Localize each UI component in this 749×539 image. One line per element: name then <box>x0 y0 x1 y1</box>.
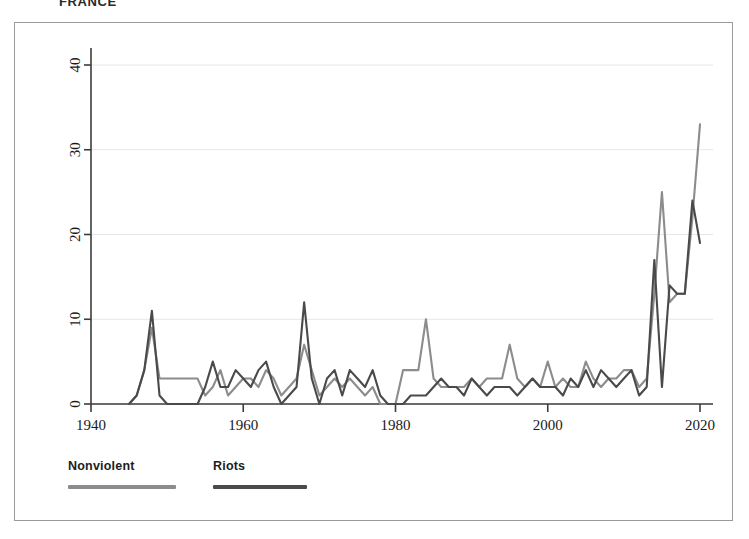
legend-swatch-riots <box>213 485 307 489</box>
legend-label-riots: Riots <box>213 459 307 473</box>
legend-item-nonviolent: Nonviolent <box>68 459 176 489</box>
legend-item-riots: Riots <box>213 459 307 489</box>
chart-legend: Nonviolent Riots <box>0 0 749 539</box>
legend-label-nonviolent: Nonviolent <box>68 459 176 473</box>
legend-swatch-nonviolent <box>68 485 176 489</box>
chart-page: FRANCE 01020304019401960198020002020 Non… <box>0 0 749 539</box>
